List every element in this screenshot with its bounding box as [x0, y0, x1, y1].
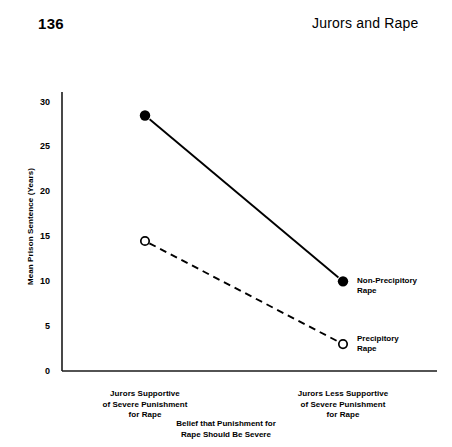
y-tick-label-15: 15	[28, 232, 50, 241]
x-category-label-0-line-0: Jurors Supportive	[60, 389, 230, 400]
series-label-0-line-1: Rape	[357, 286, 417, 296]
y-tick-label-25: 25	[28, 142, 50, 151]
series-label-0-line-0: Non-Precipitory	[357, 276, 417, 286]
chart-figure: Mean Prison Sentence (Years) 05101520253…	[0, 0, 452, 447]
x-category-label-0: Jurors Supportive of Severe Punishment f…	[60, 389, 230, 421]
series-label-non-precipitory-rape: Non-Precipitory Rape	[357, 276, 417, 296]
series-label-precipitory-rape: Precipitory Rape	[357, 334, 399, 354]
x-category-label-1: Jurors Less Supportive of Severe Punishm…	[258, 389, 428, 421]
y-tick-label-30: 30	[28, 98, 50, 107]
y-tick-label-0: 0	[28, 367, 50, 376]
x-axis-title-line-1: Rape Should Be Severe	[126, 430, 326, 441]
data-point-precipitory-rape-0	[141, 237, 149, 245]
data-point-non-precipitory-rape-0	[140, 110, 150, 120]
x-category-label-1-line-1: of Severe Punishment	[258, 400, 428, 411]
series-label-1-line-0: Precipitory	[357, 334, 399, 344]
line-chart-plot	[0, 0, 452, 447]
series-line-non-precipitory-rape	[150, 119, 339, 277]
y-tick-label-10: 10	[28, 277, 50, 286]
series-label-1-line-1: Rape	[357, 344, 399, 354]
x-axis-title: Belief that Punishment for Rape Should B…	[126, 419, 326, 440]
y-tick-label-20: 20	[28, 187, 50, 196]
data-point-precipitory-rape-1	[339, 340, 347, 348]
x-axis-title-line-0: Belief that Punishment for	[126, 419, 326, 430]
series-layer	[140, 110, 348, 348]
y-tick-label-5: 5	[28, 322, 50, 331]
x-category-label-1-line-0: Jurors Less Supportive	[258, 389, 428, 400]
data-point-non-precipitory-rape-1	[338, 276, 348, 286]
series-line-precipitory-rape	[149, 243, 338, 341]
x-category-label-0-line-1: of Severe Punishment	[60, 400, 230, 411]
